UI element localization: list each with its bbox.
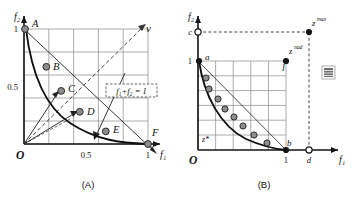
axis-lines (21, 16, 160, 147)
y-axis-arrow (195, 16, 201, 23)
sample-point[interactable] (215, 96, 221, 102)
sample-point[interactable] (206, 86, 212, 92)
ray-to-D (24, 111, 78, 144)
x-tick-1: 1 (146, 150, 150, 160)
point-D[interactable] (76, 108, 83, 115)
point-F[interactable] (145, 141, 152, 148)
x-tick-1: 1 (284, 155, 288, 165)
nadir-point-label: z (288, 47, 293, 56)
y-tick-1: 1 (188, 56, 192, 66)
point-label-C: C (68, 83, 76, 94)
sample-point[interactable] (203, 75, 209, 81)
x-axis-label: f₁ (160, 149, 166, 160)
y-tick-1: 1 (14, 24, 18, 34)
sample-point[interactable] (222, 106, 228, 112)
point-label-A: A (31, 18, 39, 29)
max-point-superscript: max (317, 16, 327, 22)
sample-points (203, 75, 270, 146)
point-a[interactable] (196, 58, 202, 64)
point-label-E: E (112, 124, 120, 135)
ideal-point-label: z* (201, 135, 209, 144)
point-a-label: a (205, 52, 210, 62)
ray-to-C (24, 91, 59, 144)
point-C[interactable] (58, 88, 65, 95)
panel-b-caption: (B) (258, 179, 271, 190)
nadir-point-superscript: nad (294, 44, 303, 50)
x-axis-arrow (331, 147, 338, 153)
constraint-label-text: f₁+f₂ = 1 (116, 86, 147, 96)
panel-b: a b l z* z nad z max 1 c 1 d f₂ f₁ O (B) (176, 0, 352, 201)
y-axis-label: f₂ (14, 11, 21, 22)
x-tick-0.5: 0.5 (81, 150, 92, 160)
panel-a: f₁+f₂ = 1 A B C D E F v (0, 0, 176, 201)
constraint-line-label: f₁+f₂ = 1 (106, 84, 157, 97)
point-labels: A B C D E F v (31, 18, 159, 138)
y-axis-label: f₂ (188, 11, 195, 22)
point-label-B: B (53, 61, 60, 72)
sample-point[interactable] (240, 123, 246, 129)
axis-lines (195, 16, 338, 153)
point-label-F: F (151, 127, 159, 138)
sample-point[interactable] (231, 114, 237, 120)
point-zmax[interactable] (306, 29, 312, 35)
point-b-label: b (287, 138, 292, 148)
x-tick-d: d (307, 155, 312, 165)
x-axis-arrow (153, 141, 160, 147)
sample-point[interactable] (251, 132, 257, 138)
point-c[interactable] (195, 29, 201, 35)
point-l-label: l (282, 62, 285, 73)
point-B[interactable] (43, 63, 50, 70)
y-tick-c: c (188, 27, 192, 37)
origin-label: O (16, 149, 24, 161)
y-axis-arrow (21, 16, 27, 23)
panel-a-plot: f₁+f₂ = 1 A B C D E F v (0, 0, 176, 201)
direction-vector-label: v (146, 22, 151, 34)
sample-point[interactable] (264, 140, 270, 146)
point-A[interactable] (22, 26, 29, 33)
y-tick-0.5: 0.5 (7, 82, 18, 92)
max-point-label: z (311, 19, 316, 28)
point-E[interactable] (102, 128, 109, 135)
point-label-D: D (86, 106, 95, 117)
hatched-square-marker (322, 66, 335, 79)
x-axis-label: f₁ (339, 154, 345, 165)
origin-label: O (189, 154, 197, 166)
panel-b-plot: a b l z* z nad z max 1 c 1 d f₂ f₁ O (B) (176, 0, 352, 201)
point-d[interactable] (306, 147, 312, 153)
two-panel-figure: f₁+f₂ = 1 A B C D E F v (0, 0, 352, 201)
panel-a-caption: (A) (82, 179, 95, 190)
